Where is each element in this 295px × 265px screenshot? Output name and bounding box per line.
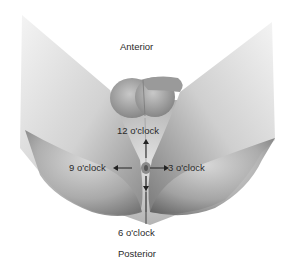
arrow-down-icon	[142, 176, 150, 192]
perineum-illustration: Anterior 12 o'clock 9 o'clock 3 o'clock …	[0, 0, 295, 265]
arrow-left-icon	[112, 164, 132, 172]
six-oclock-label: 6 o'clock	[118, 228, 155, 238]
leader-line-6oclock	[145, 192, 147, 224]
nine-oclock-label: 9 o'clock	[69, 163, 106, 173]
arrow-right-icon	[150, 164, 170, 172]
posterior-label: Posterior	[118, 249, 156, 259]
anterior-label: Anterior	[120, 42, 153, 52]
three-oclock-label: 3 o'clock	[168, 163, 205, 173]
twelve-oclock-label: 12 o'clock	[117, 126, 159, 136]
arrow-up-icon	[142, 138, 150, 158]
